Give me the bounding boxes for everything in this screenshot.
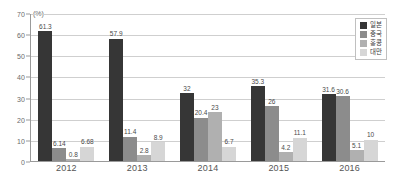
- bar-value-label: 8.9: [154, 135, 163, 142]
- x-axis-tick-label: 2015: [243, 163, 314, 181]
- bar: [251, 86, 265, 161]
- x-axis-tick-label: 2013: [102, 163, 173, 181]
- bar: [194, 118, 208, 161]
- bar-value-label: 2.8: [140, 148, 149, 155]
- y-axis-tick-label: 50: [17, 53, 25, 60]
- bar: [364, 140, 378, 161]
- bar-item: 2.8: [137, 14, 151, 161]
- bar-value-label: 11.1: [294, 130, 306, 137]
- bar-item: 26: [265, 14, 279, 161]
- legend-label: 중국: [370, 31, 382, 38]
- y-axis-tick-label: 30: [17, 95, 25, 102]
- bar: [222, 147, 236, 161]
- bar: [322, 94, 336, 161]
- bar-group-bars: 35.3264.211.1: [243, 14, 314, 161]
- bar-group-bars: 61.36.140.86.68: [31, 14, 102, 161]
- y-axis-tick-label: 70: [17, 11, 25, 18]
- bar: [265, 106, 279, 161]
- bar-item: 11.4: [123, 14, 137, 161]
- bar-value-label: 31.6: [322, 87, 335, 94]
- legend-swatch-icon: [360, 31, 367, 38]
- bar-item: 30.6: [336, 14, 350, 161]
- x-axis-tick-label: 2014: [173, 163, 244, 181]
- bar-group: 61.36.140.86.68: [31, 14, 102, 161]
- bar-item: 23: [208, 14, 222, 161]
- bar-item: 61.3: [38, 14, 52, 161]
- bar-group: 35.3264.211.1: [243, 14, 314, 161]
- bar-item: 6.68: [80, 14, 94, 161]
- bar-value-label: 26: [268, 99, 275, 106]
- bar-value-label: 5.1: [352, 143, 361, 150]
- bar: [279, 152, 293, 161]
- x-axis-tick-label: 2016: [314, 163, 385, 181]
- bar-item: 6.7: [222, 14, 236, 161]
- bar-value-label: 32: [183, 86, 190, 93]
- y-axis-tick-label: 0: [21, 159, 25, 166]
- bar-item: 57.9: [109, 14, 123, 161]
- bar-value-label: 6.14: [53, 141, 66, 148]
- bar-value-label: 57.9: [110, 31, 123, 38]
- bar-group: 57.911.42.88.9: [102, 14, 173, 161]
- bar: [208, 112, 222, 161]
- legend-item: 대만: [360, 49, 382, 56]
- legend-item: 일본: [360, 22, 382, 29]
- bar-item: 4.2: [279, 14, 293, 161]
- bar: [336, 96, 350, 161]
- bar-value-label: 30.6: [336, 89, 349, 96]
- legend-label: 일본: [370, 22, 382, 29]
- bar-value-label: 6.68: [81, 139, 94, 146]
- bar: [293, 138, 307, 161]
- bar-value-label: 0.8: [69, 152, 78, 159]
- bar-group-bars: 57.911.42.88.9: [102, 14, 173, 161]
- bar-value-label: 10: [367, 132, 374, 139]
- y-axis-tick-label: 60: [17, 32, 25, 39]
- legend-item: 홍콩: [360, 40, 382, 47]
- bar: [350, 150, 364, 161]
- x-axis-tick-label: 2012: [31, 163, 102, 181]
- y-axis-tick-label: 20: [17, 116, 25, 123]
- legend-label: 홍콩: [370, 40, 382, 47]
- y-axis-tick-label: 40: [17, 74, 25, 81]
- bar-item: 32: [180, 14, 194, 161]
- bar: [123, 137, 137, 161]
- bar-value-label: 11.4: [124, 129, 136, 136]
- bar-value-label: 35.3: [251, 79, 264, 86]
- bar-item: 6.14: [52, 14, 66, 161]
- y-axis-tick-label: 10: [17, 137, 25, 144]
- legend-label: 대만: [370, 49, 382, 56]
- bar-value-label: 4.2: [281, 145, 290, 152]
- bar: [52, 148, 66, 161]
- bar-item: 8.9: [151, 14, 165, 161]
- bar-item: 11.1: [293, 14, 307, 161]
- bar: [180, 93, 194, 161]
- bar-item: 35.3: [251, 14, 265, 161]
- legend-item: 중국: [360, 31, 382, 38]
- bar-groups: 61.36.140.86.6857.911.42.88.93220.4236.7…: [31, 14, 385, 161]
- bar-item: 20.4: [194, 14, 208, 161]
- bar: [38, 31, 52, 161]
- bar-value-label: 23: [211, 105, 218, 112]
- bar-value-label: 6.7: [224, 139, 233, 146]
- legend: 일본중국홍콩대만: [355, 18, 387, 60]
- y-axis: 010203040506070: [0, 14, 30, 162]
- bar: [80, 147, 94, 161]
- bar-item: 0.8: [66, 14, 80, 161]
- legend-swatch-icon: [360, 40, 367, 47]
- bar: [151, 142, 165, 161]
- legend-swatch-icon: [360, 22, 367, 29]
- bar-value-label: 20.4: [195, 110, 208, 117]
- bar: [109, 39, 123, 161]
- bar: [66, 159, 80, 161]
- bar-chart: (%) 010203040506070 61.36.140.86.6857.91…: [0, 0, 395, 187]
- bar-value-label: 61.3: [39, 24, 52, 31]
- bar: [137, 155, 151, 161]
- bar-group-bars: 3220.4236.7: [173, 14, 244, 161]
- legend-swatch-icon: [360, 49, 367, 56]
- bar-item: 31.6: [322, 14, 336, 161]
- x-axis: 20122013201420152016: [31, 163, 385, 181]
- bar-group: 3220.4236.7: [173, 14, 244, 161]
